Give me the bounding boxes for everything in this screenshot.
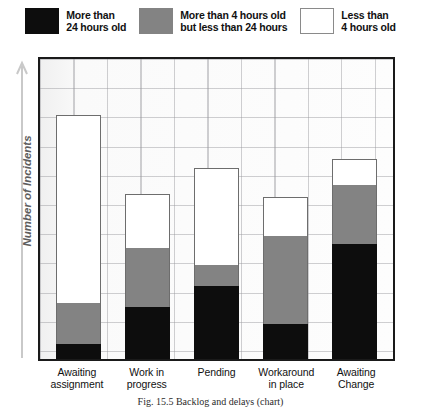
bar-segment-more-than-24-hours bbox=[56, 344, 101, 359]
x-axis-label-awaiting-assignment: Awaiting assignment bbox=[45, 366, 109, 390]
y-axis-title: Number of Incidents bbox=[21, 111, 33, 271]
x-axis-label-pending: Pending bbox=[184, 366, 248, 390]
legend-entry-4-to-24-hours: More than 4 hours old but less than 24 h… bbox=[139, 8, 287, 34]
legend-label: Less than 4 hours old bbox=[341, 8, 395, 34]
bar-segment-less-than-4-hours bbox=[332, 159, 377, 185]
legend-label: More than 4 hours old but less than 24 h… bbox=[180, 8, 287, 34]
bar-segment-4-to-24-hours bbox=[56, 303, 101, 344]
bar-segment-4-to-24-hours bbox=[263, 236, 308, 324]
bar-segment-more-than-24-hours bbox=[194, 286, 239, 359]
bar-segment-less-than-4-hours bbox=[194, 168, 239, 265]
bar-segment-more-than-24-hours bbox=[332, 244, 377, 359]
bar-segment-less-than-4-hours bbox=[125, 194, 170, 248]
bar-segment-more-than-24-hours bbox=[125, 307, 170, 359]
light-swatch-icon bbox=[300, 8, 334, 34]
bar-segment-less-than-4-hours bbox=[263, 197, 308, 236]
legend-entry-more-than-24-hours: More than 24 hours old bbox=[25, 8, 126, 34]
bar-series-container bbox=[40, 59, 393, 359]
bar-segment-less-than-4-hours bbox=[56, 115, 101, 303]
bar-segment-more-than-24-hours bbox=[263, 324, 308, 359]
legend-entry-less-than-4-hours: Less than 4 hours old bbox=[300, 8, 395, 34]
x-axis-label-awaiting-change: Awaiting Change bbox=[324, 366, 388, 390]
bar-awaiting-change[interactable] bbox=[332, 159, 377, 359]
chart-legend: More than 24 hours old More than 4 hours… bbox=[0, 8, 421, 48]
bar-segment-4-to-24-hours bbox=[125, 248, 170, 307]
plot-area bbox=[38, 57, 395, 361]
x-axis-labels: Awaiting assignment Work in progress Pen… bbox=[38, 366, 395, 390]
dark-swatch-icon bbox=[25, 8, 59, 34]
x-axis-label-workaround-in-place: Workaround in place bbox=[254, 366, 318, 390]
figure-caption: Fig. 15.5 Backlog and delays (chart) bbox=[0, 396, 421, 409]
bar-awaiting-assignment[interactable] bbox=[56, 115, 101, 359]
bar-segment-4-to-24-hours bbox=[194, 265, 239, 286]
x-axis-label-work-in-progress: Work in progress bbox=[115, 366, 179, 390]
bar-work-in-progress[interactable] bbox=[125, 194, 170, 359]
mid-swatch-icon bbox=[139, 8, 173, 34]
legend-label: More than 24 hours old bbox=[66, 8, 126, 34]
bar-workaround-in-place[interactable] bbox=[263, 197, 308, 359]
bar-segment-4-to-24-hours bbox=[332, 185, 377, 244]
bar-pending[interactable] bbox=[194, 168, 239, 359]
